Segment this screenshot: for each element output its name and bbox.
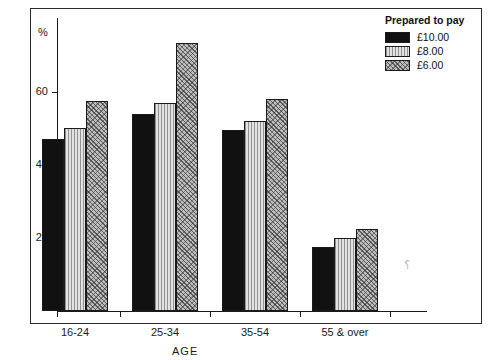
- x-tick-mark-2: [210, 312, 211, 317]
- bar-25-34-6.00: [176, 43, 198, 311]
- legend-label-10.00: £10.00: [417, 31, 449, 43]
- legend-swatch-10.00: [385, 32, 410, 43]
- legend-swatch-6.00: [385, 60, 410, 71]
- bar-chart: % 20 40 60 16-24 25-34 35-54 55 & over A…: [0, 0, 493, 360]
- bar-55-over-10.00: [312, 247, 334, 311]
- bar-35-54-8.00: [244, 121, 266, 311]
- legend-item-10.00: £10.00: [385, 31, 477, 43]
- legend-item-8.00: £8.00: [385, 45, 477, 57]
- x-tick-mark-0: [57, 312, 58, 317]
- bar-25-34-8.00: [154, 103, 176, 311]
- legend: Prepared to pay £10.00 £8.00 £6.00: [385, 14, 477, 73]
- scan-artifact-mark: ⸮: [404, 258, 418, 274]
- x-tick-mark-3: [300, 312, 301, 317]
- x-axis-line: [57, 311, 427, 312]
- bar-55-over-8.00: [334, 238, 356, 311]
- legend-label-8.00: £8.00: [417, 45, 443, 57]
- legend-item-6.00: £6.00: [385, 59, 477, 71]
- bar-55-over-6.00: [356, 229, 378, 311]
- x-tick-mark-1: [120, 312, 121, 317]
- x-tick-mark-4: [390, 312, 391, 317]
- bar-16-24-8.00: [64, 128, 86, 311]
- x-category-label-16-24: 16-24: [45, 326, 105, 338]
- bar-25-34-10.00: [132, 114, 154, 311]
- y-tick-label-60: 60: [22, 85, 48, 97]
- legend-label-6.00: £6.00: [417, 59, 443, 71]
- x-category-label-55-over: 55 & over: [300, 326, 390, 338]
- legend-swatch-8.00: [385, 46, 410, 57]
- legend-title: Prepared to pay: [385, 14, 477, 26]
- bar-35-54-10.00: [222, 130, 244, 311]
- x-category-label-35-54: 35-54: [225, 326, 285, 338]
- y-axis-label: %: [38, 26, 48, 38]
- x-axis-title: AGE: [172, 345, 198, 357]
- bar-16-24-10.00: [42, 139, 64, 311]
- bar-16-24-6.00: [86, 101, 108, 311]
- y-tick-mark-60: [52, 92, 57, 93]
- x-category-label-25-34: 25-34: [135, 326, 195, 338]
- bar-35-54-6.00: [266, 99, 288, 311]
